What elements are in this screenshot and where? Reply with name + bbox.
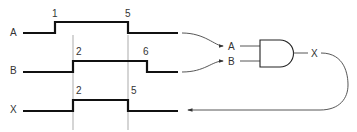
signal-a-rise-label: 1 [52,8,58,19]
signal-b-label: B [10,65,17,76]
signal-a-label: A [10,27,17,38]
gate-input-a-label: A [228,41,235,52]
and-gate-icon [260,40,294,67]
gate-output-label: X [311,48,318,59]
signal-a-fall-label: 5 [125,8,131,19]
signal-b-waveform [23,61,178,72]
signal-x-rise-label: 2 [76,85,82,96]
signal-b-fall-label: 6 [143,46,149,57]
signal-b-rise-label: 2 [76,46,82,57]
arrow-b-to-gate [182,61,223,72]
signal-a-waveform [23,22,178,33]
signal-x-label: X [10,104,17,115]
signal-x-fall-label: 5 [131,85,137,96]
timing-diagram: A 1 5 B 2 6 X 2 5 A B X [0,0,357,132]
arrow-a-to-gate [182,33,223,46]
signal-x-waveform [23,100,178,111]
gate-input-b-label: B [228,56,235,67]
